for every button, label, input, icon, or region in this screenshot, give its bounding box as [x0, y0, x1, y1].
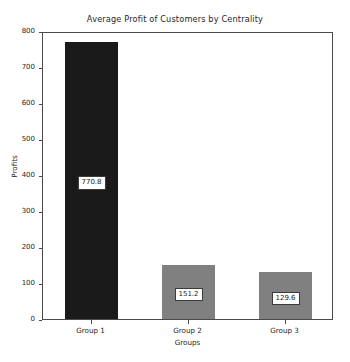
bar-value-label: 129.6: [271, 292, 299, 306]
y-tick-label: 700: [22, 63, 35, 71]
y-tick-label: 100: [22, 279, 35, 287]
x-tick-label: Group 2: [173, 326, 202, 335]
chart-figure: Average Profit of Customers by Centralit…: [0, 0, 350, 362]
plot-frame: 770.8151.2129.6: [42, 32, 333, 320]
x-tick-label: Group 1: [76, 326, 105, 335]
y-tick-mark: [39, 320, 43, 321]
x-tick-mark: [285, 320, 286, 324]
x-tick-mark: [188, 320, 189, 324]
y-tick-label: 0: [31, 315, 35, 323]
x-tick-mark: [91, 320, 92, 324]
x-tick-label: Group 3: [270, 326, 299, 335]
y-tick-label: 500: [22, 135, 35, 143]
y-tick-label: 800: [22, 27, 35, 35]
y-axis-title: Profits: [10, 137, 19, 197]
chart-title: Average Profit of Customers by Centralit…: [0, 14, 350, 24]
plot-area: 770.8151.2129.6: [43, 33, 332, 319]
y-tick-label: 600: [22, 99, 35, 107]
y-tick-label: 400: [22, 171, 35, 179]
y-tick-label: 200: [22, 243, 35, 251]
bar-value-label: 770.8: [77, 176, 105, 190]
x-axis-title: Groups: [42, 338, 333, 347]
bar-value-label: 151.2: [174, 288, 202, 302]
y-tick-label: 300: [22, 207, 35, 215]
